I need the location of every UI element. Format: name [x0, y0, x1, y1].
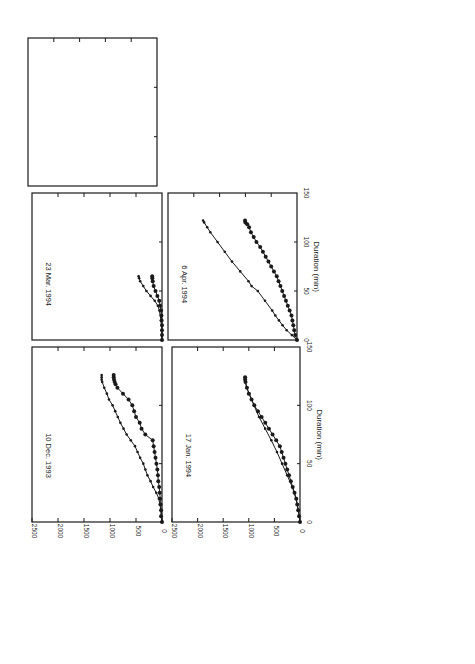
- sediment-marker: [294, 497, 298, 501]
- sediment-marker: [158, 497, 162, 501]
- runoff-tick-label: 1000: [248, 524, 255, 539]
- runoff-line: [203, 220, 297, 340]
- runoff-marker: [274, 314, 277, 317]
- runoff-marker: [100, 376, 103, 379]
- duration-tick-label: 150: [306, 342, 313, 353]
- sediment-marker: [132, 409, 136, 413]
- sediment-marker: [266, 260, 270, 264]
- panel-frame: [28, 38, 157, 186]
- runoff-marker: [100, 374, 103, 377]
- sediment-marker: [269, 265, 273, 269]
- sediment-marker: [280, 289, 284, 293]
- sediment-marker: [282, 456, 286, 460]
- runoff-marker: [111, 404, 114, 407]
- runoff-marker: [139, 280, 142, 283]
- sediment-marker: [256, 409, 260, 413]
- sediment-marker: [127, 398, 131, 402]
- duration-tick-label: 100: [306, 400, 313, 411]
- runoff-tick-label: 500: [273, 526, 280, 537]
- runoff-tick-label: 0: [299, 529, 306, 533]
- runoff-marker: [119, 422, 122, 425]
- sediment-marker: [152, 444, 156, 448]
- sediment-marker: [286, 304, 290, 308]
- panel-6-apr-1994: 050100150Duration (min)6 Apr. 1994: [168, 188, 321, 343]
- sediment-marker: [290, 318, 294, 322]
- panel-title: 6 Apr. 1994: [180, 265, 189, 303]
- runoff-marker: [125, 433, 128, 436]
- sediment-marker: [293, 491, 297, 495]
- runoff-marker: [152, 486, 155, 489]
- sediment-marker: [263, 421, 267, 425]
- panel-title: 23 Mar. 1994: [44, 262, 53, 306]
- runoff-marker: [250, 285, 253, 288]
- runoff-marker: [270, 439, 273, 442]
- sediment-line: [114, 375, 162, 522]
- sediment-marker: [130, 403, 134, 407]
- sediment-marker: [261, 250, 265, 254]
- sediment-marker: [112, 373, 116, 377]
- runoff-tick-label: 2500: [31, 524, 38, 539]
- sediment-marker: [291, 323, 295, 327]
- runoff-marker: [139, 457, 142, 460]
- runoff-marker: [264, 300, 267, 303]
- sediment-marker: [277, 279, 281, 283]
- duration-tick-label: 0: [306, 520, 313, 524]
- sediment-marker: [121, 392, 125, 396]
- runoff-marker: [231, 260, 234, 263]
- sediment-marker: [289, 314, 293, 318]
- runoff-marker: [206, 226, 209, 229]
- runoff-tick-label: 1500: [83, 524, 90, 539]
- sediment-marker: [278, 284, 282, 288]
- sediment-marker: [252, 235, 256, 239]
- sediment-marker: [159, 309, 163, 313]
- rotated-chart-figure: 0500100015002000250010 Dec. 199305001000…: [0, 0, 475, 664]
- sediment-marker: [154, 289, 158, 293]
- sediment-marker: [157, 485, 161, 489]
- sediment-marker: [143, 433, 147, 437]
- runoff-marker: [108, 398, 111, 401]
- sediment-marker: [160, 520, 164, 524]
- sediment-marker: [160, 323, 164, 327]
- runoff-marker: [114, 410, 117, 413]
- runoff-tick-label: 2500: [171, 524, 178, 539]
- sediment-marker: [243, 375, 247, 379]
- sediment-marker: [284, 299, 288, 303]
- sediment-marker: [291, 485, 295, 489]
- sediment-marker: [258, 245, 262, 249]
- sediment-marker: [254, 240, 258, 244]
- sediment-marker: [287, 473, 291, 477]
- runoff-marker: [149, 295, 152, 298]
- panel-title: 10 Dec. 1993: [44, 433, 53, 478]
- sediment-marker: [160, 333, 164, 337]
- runoff-marker: [136, 451, 139, 454]
- sediment-marker: [151, 438, 155, 442]
- sediment-marker: [297, 514, 301, 518]
- runoff-line: [102, 375, 162, 522]
- sediment-marker: [158, 491, 162, 495]
- sediment-marker: [134, 415, 138, 419]
- sediment-marker: [298, 520, 302, 524]
- runoff-marker: [239, 270, 242, 273]
- duration-tick-label: 100: [303, 237, 310, 248]
- runoff-marker: [100, 378, 103, 381]
- runoff-marker: [264, 427, 267, 430]
- sediment-marker: [154, 462, 158, 466]
- panel-9-dec-1994: [28, 38, 157, 186]
- sediment-marker: [249, 230, 253, 234]
- runoff-marker: [101, 381, 104, 384]
- sediment-marker: [280, 450, 284, 454]
- sediment-marker: [154, 456, 158, 460]
- sediment-marker: [272, 269, 276, 273]
- duration-tick-label: 0: [303, 338, 310, 342]
- panel-10-dec-1993: 0500100015002000250010 Dec. 1993: [31, 347, 168, 539]
- runoff-marker: [149, 480, 152, 483]
- runoff-tick-label: 2000: [57, 524, 64, 539]
- sediment-marker: [156, 473, 160, 477]
- runoff-marker: [145, 290, 148, 293]
- runoff-marker: [130, 439, 133, 442]
- sediment-marker: [292, 328, 296, 332]
- runoff-marker: [142, 285, 145, 288]
- sediment-marker: [160, 328, 164, 332]
- runoff-marker: [223, 251, 226, 254]
- sediment-marker: [159, 503, 163, 507]
